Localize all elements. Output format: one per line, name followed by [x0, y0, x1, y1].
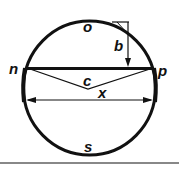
x-arrow-right-icon: [143, 97, 153, 103]
left-arc-thick: [23, 68, 25, 102]
label-p: p: [157, 62, 167, 79]
x-arrow-left-icon: [26, 97, 36, 103]
label-n: n: [9, 60, 18, 77]
label-s: s: [84, 138, 92, 155]
label-b: b: [114, 37, 123, 54]
label-x: x: [97, 84, 107, 101]
circle-chord-diagram: o b n p c x s: [0, 0, 179, 169]
label-o: o: [83, 18, 92, 35]
label-c: c: [83, 72, 92, 89]
b-arrow-down-icon: [125, 58, 131, 67]
right-arc-thick: [154, 68, 156, 102]
